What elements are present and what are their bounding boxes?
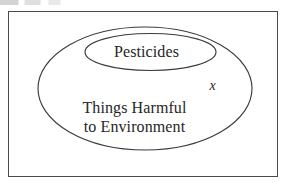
inner-set-label: Pesticides xyxy=(0,42,295,62)
element-x-label-text: x xyxy=(209,78,215,94)
outer-set-label-line-2: to Environment xyxy=(0,117,282,136)
inner-set-label-text: Pesticides xyxy=(114,42,179,62)
euler-diagram: Pesticides Things Harmfulto Environment … xyxy=(0,0,295,185)
element-x-label: x xyxy=(0,78,295,94)
outer-set-label: Things Harmfulto Environment xyxy=(0,98,295,136)
outer-set-label-line-1: Things Harmful xyxy=(0,98,282,117)
